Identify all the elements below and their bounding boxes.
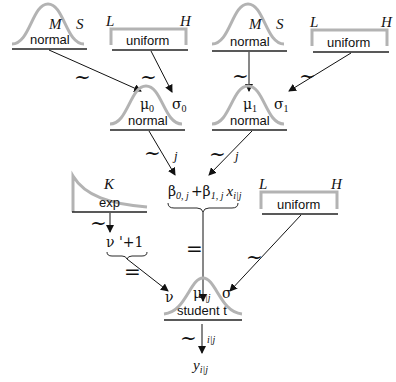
param-K: K xyxy=(103,176,115,192)
param-S: S xyxy=(276,16,284,32)
param-H: H xyxy=(380,14,393,30)
param-H: H xyxy=(179,13,192,29)
index-j: j xyxy=(233,148,239,163)
dist-label: normal xyxy=(230,113,270,128)
param-S: S xyxy=(76,16,84,32)
arrow-uniform-to-sigma xyxy=(230,215,301,291)
dist-label: student t xyxy=(177,303,227,318)
tilde-symbol: ~ xyxy=(209,142,226,166)
dist-label: exp xyxy=(99,195,120,210)
uniform-prior-sigma0: L H uniform xyxy=(105,13,192,50)
exp-prior-nu: K exp xyxy=(72,176,147,212)
param-M: M xyxy=(248,16,263,32)
dist-label: uniform xyxy=(327,35,370,50)
param-H: H xyxy=(330,176,343,192)
tilde-symbol: ~ xyxy=(232,64,249,88)
param-mu1: μ1 xyxy=(243,96,257,114)
dist-label: normal xyxy=(230,34,270,49)
arrow-normal-to-mu0 xyxy=(49,50,141,91)
tilde-symbol: ~ xyxy=(180,326,197,350)
dist-label: normal xyxy=(30,32,70,47)
normal-beta1: μ1 σ1 normal xyxy=(212,86,289,130)
param-sigma: σ xyxy=(222,285,232,301)
tilde-symbol: ~ xyxy=(144,141,161,165)
param-L: L xyxy=(258,176,267,192)
tilde-symbol: ~ xyxy=(90,211,107,235)
normal-prior-mu1: M S normal xyxy=(212,4,287,51)
normal-beta0: μ0 σ0 normal xyxy=(110,86,187,130)
predictor-brace xyxy=(168,203,238,212)
equals-symbol: = xyxy=(186,237,203,261)
param-M: M xyxy=(48,16,63,32)
index-j: j xyxy=(172,148,178,163)
param-nu: ν xyxy=(165,289,174,305)
param-mu: μi|j xyxy=(193,285,211,303)
normal-prior-mu0: M S normal xyxy=(12,4,87,49)
index-ij: i|j xyxy=(207,334,216,345)
nu-brace xyxy=(107,252,147,259)
nu-prime-plus-one: ν '+1 xyxy=(106,234,143,250)
tilde-symbol: ~ xyxy=(246,245,263,269)
param-L: L xyxy=(105,13,114,29)
dist-label: uniform xyxy=(126,33,169,48)
tilde-symbol: ~ xyxy=(74,65,91,89)
diagram-canvas: M S normal L H uniform M S normal L H un… xyxy=(0,0,396,382)
dist-label: normal xyxy=(128,113,168,128)
linear-predictor: β0, j+β1, jxi|j xyxy=(168,183,242,201)
param-sigma1: σ1 xyxy=(274,96,289,114)
tilde-symbol: ~ xyxy=(299,64,316,88)
uniform-prior-sigma: L H uniform xyxy=(258,176,343,214)
dist-label: uniform xyxy=(277,197,320,212)
model-diagram: M S normal L H uniform M S normal L H un… xyxy=(0,0,396,382)
param-L: L xyxy=(309,14,318,30)
observed-y: yi|j xyxy=(191,357,208,375)
uniform-prior-sigma1: L H uniform xyxy=(309,14,393,52)
param-sigma0: σ0 xyxy=(172,96,187,114)
param-mu0: μ0 xyxy=(140,96,154,114)
